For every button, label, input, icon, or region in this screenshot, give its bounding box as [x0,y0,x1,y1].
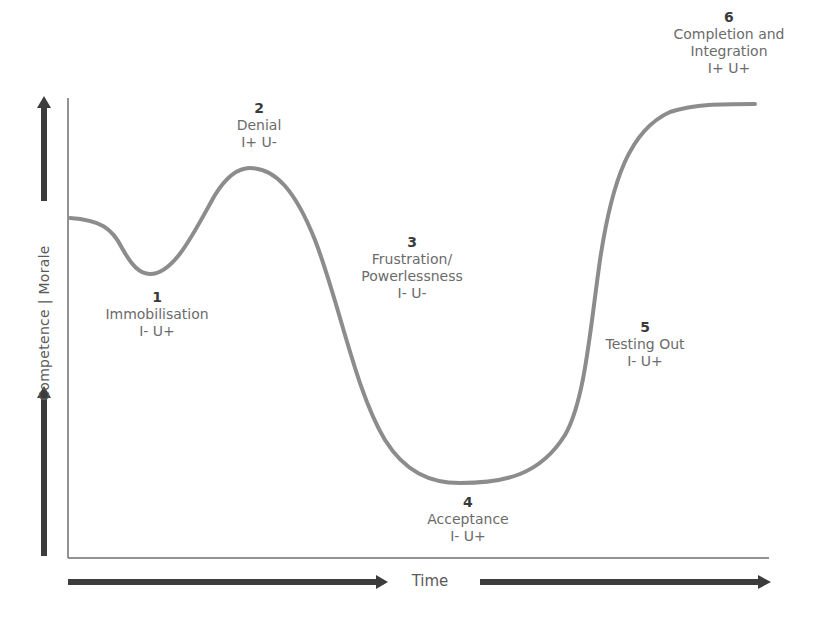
stage-1-name: Immobilisation [105,306,208,323]
y-axis-arrow-upper-icon [37,96,51,201]
stage-5-number: 5 [605,319,684,336]
x-axis-label: Time [412,572,449,590]
stage-1-number: 1 [105,289,208,306]
stage-3-code: I- U- [361,285,463,302]
stage-4-number: 4 [427,494,508,511]
stage-6-name-line1: Completion and [674,26,785,43]
stage-5-label: 5 Testing Out I- U+ [605,319,684,370]
stage-3-name-line1: Frustration/ [361,251,463,268]
stage-5-name: Testing Out [605,336,684,353]
stage-4-label: 4 Acceptance I- U+ [427,494,508,545]
stage-2-code: I+ U- [237,134,282,151]
stage-6-code: I+ U+ [674,60,785,77]
stage-4-code: I- U+ [427,528,508,545]
y-axis-label: Competence | Morale [36,245,52,401]
stage-6-name-line2: Integration [674,43,785,60]
stage-6-number: 6 [674,9,785,26]
stage-3-number: 3 [361,234,463,251]
stage-4-name: Acceptance [427,511,508,528]
stage-6-label: 6 Completion and Integration I+ U+ [674,9,785,77]
stage-1-code: I- U+ [105,323,208,340]
x-axis-arrow-left-icon [68,575,388,589]
stage-2-name: Denial [237,117,282,134]
stage-3-label: 3 Frustration/ Powerlessness I- U- [361,234,463,302]
x-axis-arrow-right-icon [480,575,771,589]
stage-1-label: 1 Immobilisation I- U+ [105,289,208,340]
stage-2-label: 2 Denial I+ U- [237,100,282,151]
y-axis-arrow-lower-icon [37,386,51,556]
stage-2-number: 2 [237,100,282,117]
stage-3-name-line2: Powerlessness [361,268,463,285]
stage-5-code: I- U+ [605,353,684,370]
